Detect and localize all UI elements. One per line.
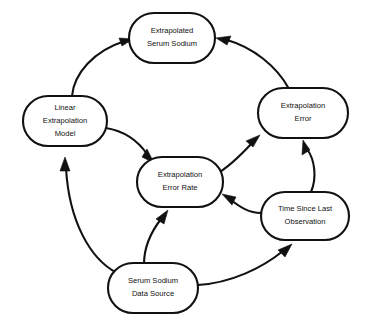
edge-data-source-to-time[interactable] xyxy=(198,244,292,285)
causal-loop-diagram: Extrapolated Serum Sodium Linear Extrapo… xyxy=(0,0,367,324)
node-shape xyxy=(258,88,348,138)
node-label-line-2: Data Source xyxy=(132,289,174,298)
node-label-line-1: Extrapolation xyxy=(158,170,202,179)
arrowhead-icon xyxy=(60,157,70,171)
edge-model-to-extrapolated-sodium[interactable] xyxy=(72,38,133,96)
edge-line xyxy=(227,40,289,89)
edge-data-source-to-error-rate[interactable] xyxy=(144,210,168,264)
edge-error-rate-to-error[interactable] xyxy=(215,135,260,175)
edge-line xyxy=(231,200,261,213)
node-extrapolation-error[interactable]: Extrapolation Error xyxy=(258,88,348,138)
edge-time-to-error[interactable] xyxy=(302,140,314,192)
arrowhead-icon xyxy=(216,36,231,45)
node-label-line-1: Extrapolation xyxy=(281,101,325,110)
node-label-line-2: Extrapolation xyxy=(43,116,87,125)
node-label-line-2: Error xyxy=(295,114,312,123)
diagram-canvas: Extrapolated Serum Sodium Linear Extrapo… xyxy=(0,0,367,324)
node-shape xyxy=(137,157,223,207)
node-layer: Extrapolated Serum Sodium Linear Extrapo… xyxy=(23,13,349,313)
edge-line xyxy=(198,251,283,285)
node-shape xyxy=(129,13,215,63)
node-time-since-last-observation[interactable]: Time Since Last Observation xyxy=(261,192,349,240)
arrowhead-icon xyxy=(246,135,260,147)
node-label-line-2: Serum Sodium xyxy=(147,39,197,48)
edge-line xyxy=(106,128,147,154)
node-extrapolation-error-rate[interactable]: Extrapolation Error Rate xyxy=(137,157,223,207)
edge-line xyxy=(72,41,125,96)
node-shape xyxy=(108,263,198,313)
edge-line xyxy=(144,219,161,264)
node-label-line-3: Model xyxy=(55,129,76,138)
node-label-line-1: Time Since Last xyxy=(278,204,333,213)
edge-time-to-error-rate[interactable] xyxy=(222,194,261,213)
node-label-line-1: Serum Sodium xyxy=(128,276,178,285)
arrowhead-icon xyxy=(278,244,292,257)
edge-error-to-extrapolated-sodium[interactable] xyxy=(216,36,289,89)
node-label-line-2: Error Rate xyxy=(162,183,197,192)
node-label-line-1: Linear xyxy=(54,103,76,112)
edge-line xyxy=(66,168,117,273)
node-serum-sodium-data-source[interactable]: Serum Sodium Data Source xyxy=(108,263,198,313)
edge-model-to-error-rate[interactable] xyxy=(106,128,154,163)
node-shape xyxy=(261,192,349,240)
node-label-line-2: Observation xyxy=(285,217,326,226)
edge-line xyxy=(307,149,314,192)
node-label-line-1: Extrapolated xyxy=(151,26,194,35)
node-extrapolated-serum-sodium[interactable]: Extrapolated Serum Sodium xyxy=(129,13,215,63)
node-linear-extrapolation-model[interactable]: Linear Extrapolation Model xyxy=(23,96,107,146)
edge-data-source-to-model[interactable] xyxy=(60,157,117,273)
